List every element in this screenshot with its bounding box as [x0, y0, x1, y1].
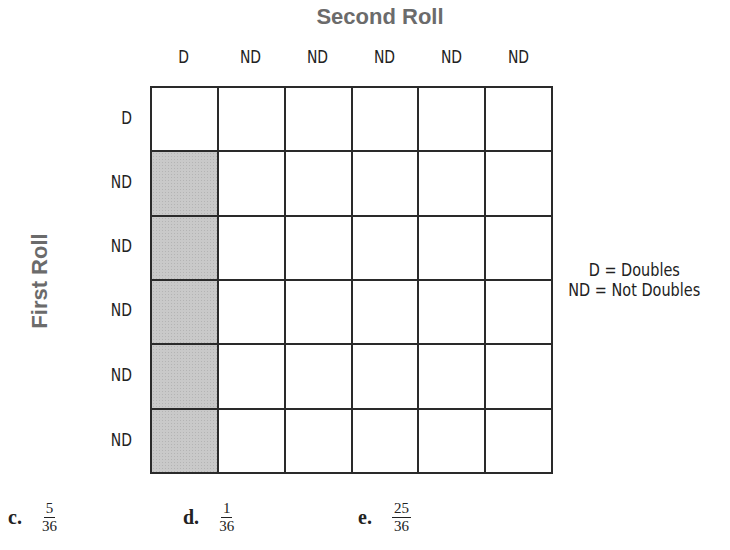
grid-cell: [353, 345, 418, 407]
grid-cell: [419, 217, 484, 279]
grid-cell: [419, 152, 484, 214]
grid-cell: [486, 281, 551, 343]
fraction: 5 36: [42, 500, 57, 535]
choice-letter: d.: [183, 506, 199, 529]
grid-cell: [219, 410, 284, 472]
y-axis-label: First Roll: [27, 221, 53, 341]
grid-cell: [219, 217, 284, 279]
choice-letter: e.: [358, 506, 372, 529]
grid-cell: [286, 281, 351, 343]
grid-cell: [419, 281, 484, 343]
fraction: 1 36: [219, 500, 234, 535]
legend: D = Doubles ND = Not Doubles: [562, 260, 707, 300]
outcome-grid: [150, 86, 553, 474]
diagram-title: Second Roll: [0, 4, 730, 30]
answer-choice-e: e. 25 36: [358, 500, 411, 535]
grid-cell: [353, 88, 418, 150]
column-label: D: [156, 47, 211, 67]
answer-choice-d: d. 1 36: [183, 500, 234, 535]
column-label: ND: [424, 47, 479, 67]
grid-cell: [486, 217, 551, 279]
row-label: ND: [83, 172, 132, 192]
column-label: ND: [357, 47, 412, 67]
row-label: ND: [83, 300, 132, 320]
grid-cell: [353, 410, 418, 472]
grid-cell: [419, 410, 484, 472]
row-label: ND: [83, 365, 132, 385]
row-label: ND: [83, 236, 132, 256]
grid-cell: [419, 88, 484, 150]
grid-cell: [286, 152, 351, 214]
grid-cell-shaded: [152, 281, 217, 343]
numerator: 1: [221, 500, 233, 518]
row-label: D: [83, 108, 132, 128]
grid-cell: [353, 217, 418, 279]
grid-cell: [219, 345, 284, 407]
fraction: 25 36: [392, 500, 411, 535]
grid-cell: [286, 217, 351, 279]
answer-choice-c: c. 5 36: [8, 500, 57, 535]
numerator: 25: [392, 500, 411, 518]
grid-cell-shaded: [152, 152, 217, 214]
grid-cell: [353, 281, 418, 343]
denominator: 36: [394, 518, 409, 535]
grid-cell: [152, 88, 217, 150]
choice-letter: c.: [8, 506, 22, 529]
row-label: ND: [83, 430, 132, 450]
column-label: ND: [223, 47, 278, 67]
grid-cell: [486, 345, 551, 407]
grid-cell: [219, 88, 284, 150]
grid-cell: [286, 88, 351, 150]
grid-cell: [486, 152, 551, 214]
column-label: ND: [290, 47, 345, 67]
grid-cell: [286, 410, 351, 472]
grid-cell-shaded: [152, 410, 217, 472]
numerator: 5: [44, 500, 56, 518]
grid-cell: [286, 345, 351, 407]
grid-cell: [219, 152, 284, 214]
grid-cell: [486, 410, 551, 472]
legend-item-doubles: D = Doubles: [562, 260, 707, 280]
grid-cell: [486, 88, 551, 150]
denominator: 36: [219, 518, 234, 535]
column-label: ND: [491, 47, 546, 67]
grid-cell-shaded: [152, 345, 217, 407]
grid-cell: [419, 345, 484, 407]
grid-cell: [353, 152, 418, 214]
denominator: 36: [42, 518, 57, 535]
grid-cell: [219, 281, 284, 343]
grid-cell-shaded: [152, 217, 217, 279]
legend-item-not-doubles: ND = Not Doubles: [562, 280, 707, 300]
